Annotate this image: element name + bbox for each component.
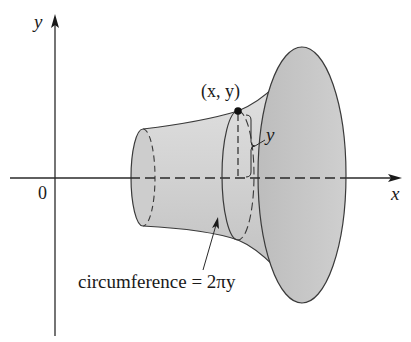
x-axis-label: x <box>391 184 399 203</box>
point-label: (x, y) <box>201 82 240 100</box>
radius-label: y <box>266 125 274 144</box>
origin-label: 0 <box>38 184 47 202</box>
right-end-cap <box>258 47 346 303</box>
y-axis <box>51 14 59 336</box>
point-marker-icon <box>234 107 242 115</box>
y-axis-label: y <box>34 12 42 31</box>
circumference-label: circumference = 2πy <box>78 272 235 291</box>
